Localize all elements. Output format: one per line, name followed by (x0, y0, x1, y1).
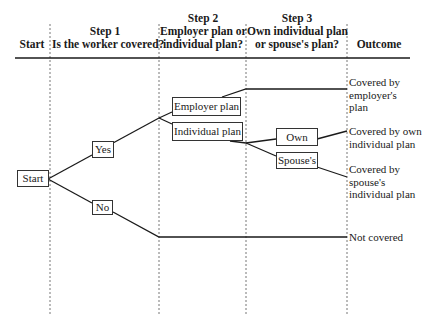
step2-title: Step 2 (160, 12, 246, 25)
edge-no-not-covered (113, 212, 347, 237)
outcome-own-line: individual plan (349, 138, 422, 151)
outcome-spouse-line: Covered by (349, 163, 415, 176)
node-individual-plan: Individual plan (172, 122, 243, 141)
node-no: No (92, 200, 113, 215)
outcome-own: Covered by own individual plan (349, 125, 422, 150)
step2-question-line1: Employer plan or (160, 25, 246, 38)
outcome-spouse-line: spouse's (349, 176, 415, 189)
edge-to-employer (159, 112, 172, 118)
edge-employer-outcome (222, 89, 347, 97)
outcome-not-covered-line: Not covered (349, 231, 403, 244)
edge-yes-step2 (113, 118, 159, 143)
header-start-label: Start (20, 38, 45, 50)
node-yes: Yes (92, 141, 114, 158)
header-step1: Step 1 Is the worker covered? (52, 25, 158, 51)
header-outcome: Outcome (349, 38, 409, 51)
edge-individual-branch (230, 141, 246, 143)
step1-question: Is the worker covered? (52, 38, 158, 51)
edge-to-spouses (246, 143, 276, 156)
header-step2: Step 2 Employer plan or individual plan? (160, 12, 246, 51)
node-start: Start (17, 170, 49, 187)
outcome-employer: Covered by employer's plan (349, 76, 400, 114)
edge-own-outcome (317, 131, 347, 139)
header-step3: Step 3 Own individual plan or spouse's p… (247, 12, 347, 51)
outcome-not-covered: Not covered (349, 231, 403, 244)
outcome-spouse: Covered by spouse's individual plan (349, 163, 415, 201)
edge-to-own (246, 139, 276, 143)
step3-question-line1: Own individual plan (247, 25, 347, 38)
outcome-spouse-line: individual plan (349, 188, 415, 201)
step3-title: Step 3 (247, 12, 347, 25)
edge-start-no (48, 179, 92, 203)
header-start: Start (14, 38, 50, 51)
edge-start-yes (48, 155, 92, 179)
node-employer-plan: Employer plan (172, 97, 241, 116)
step3-question-line2: or spouse's plan? (247, 38, 347, 51)
outcome-own-line: Covered by own (349, 125, 422, 138)
step1-title: Step 1 (52, 25, 158, 38)
node-spouses: Spouse's (276, 152, 318, 169)
edge-to-individual (159, 118, 172, 124)
node-own: Own (276, 128, 318, 146)
outcome-employer-line: Covered by (349, 76, 400, 89)
outcome-employer-line: plan (349, 101, 400, 114)
edge-spouse-outcome (317, 167, 347, 177)
header-outcome-label: Outcome (357, 38, 402, 50)
outcome-employer-line: employer's (349, 89, 400, 102)
step2-question-line2: individual plan? (160, 38, 246, 51)
